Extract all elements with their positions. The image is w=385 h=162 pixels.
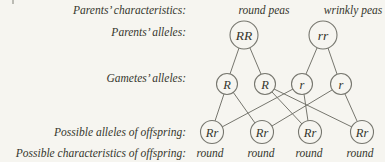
label-offspring-characteristics: Possible characteristics of offspring: — [15, 147, 186, 160]
parent-allele-nodes: RR rr — [230, 21, 337, 49]
connector-r1-to-Rr3 — [304, 94, 308, 121]
parent-allele-rr: rr — [318, 28, 329, 43]
offspring-allele-Rr4: Rr — [355, 126, 369, 140]
connector-R1-to-Rr1 — [215, 94, 224, 121]
parent-gamete-connectors — [230, 48, 337, 74]
gamete-allele-r1: r — [300, 78, 305, 92]
genetics-cross-diagram: Parents’ characteristics: Parents’ allel… — [0, 0, 385, 162]
connector-RR-to-R1 — [230, 48, 239, 74]
connector-r2-to-Rr4 — [345, 94, 357, 121]
offspring-allele-Rr1: Rr — [205, 126, 219, 140]
label-parents-characteristics: Parents’ characteristics: — [72, 4, 186, 16]
parent-characteristic-wrinkly-peas: wrinkly peas — [324, 4, 383, 17]
parent-characteristic-round-peas: round peas — [238, 4, 290, 17]
offspring-characteristic-2: round — [247, 147, 274, 159]
parent-characteristics: round peas wrinkly peas — [238, 4, 382, 17]
connector-R1-to-Rr2 — [233, 92, 255, 123]
gamete-allele-R1: R — [222, 78, 231, 92]
label-gametes-alleles: Gametes’ alleles: — [106, 72, 186, 84]
row-labels: Parents’ characteristics: Parents’ allel… — [15, 4, 186, 160]
label-offspring-alleles: Possible alleles of offspring: — [53, 126, 186, 139]
offspring-characteristic-4: round — [346, 147, 373, 159]
offspring-allele-Rr3: Rr — [303, 126, 317, 140]
connector-rr-to-r1 — [306, 48, 317, 74]
offspring-allele-Rr2: Rr — [255, 126, 269, 140]
offspring-nodes: Rr Rr Rr Rr — [201, 121, 374, 144]
gamete-offspring-connectors — [215, 89, 357, 127]
offspring-characteristic-1: round — [196, 147, 223, 159]
gamete-allele-R2: R — [260, 78, 269, 92]
label-parents-alleles: Parents’ alleles: — [110, 26, 186, 38]
diagram-canvas: Parents’ characteristics: Parents’ allel… — [0, 0, 385, 162]
connector-R2-to-Rr3 — [272, 92, 302, 124]
connector-rr-to-r2 — [328, 48, 337, 74]
scan-artifact — [12, 0, 14, 4]
connector-RR-to-R2 — [250, 48, 261, 74]
gamete-allele-r2: r — [339, 78, 344, 92]
offspring-characteristics: round round round round — [196, 147, 373, 159]
parent-allele-RR: RR — [235, 28, 253, 43]
gamete-nodes: R R r r — [217, 74, 352, 95]
offspring-characteristic-3: round — [295, 147, 322, 159]
